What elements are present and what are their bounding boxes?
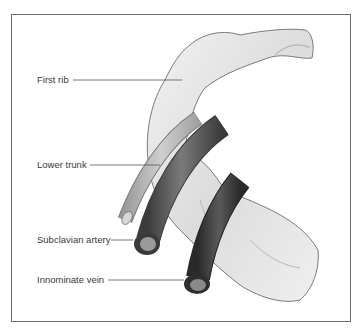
label-first-rib: First rib — [37, 74, 69, 85]
subclavian-artery-lumen-inner — [140, 237, 156, 251]
label-lower-trunk: Lower trunk — [37, 159, 87, 170]
label-subclavian-artery: Subclavian artery — [37, 234, 110, 245]
label-innominate-vein: Innominate vein — [37, 274, 104, 285]
innominate-vein-lumen-inner — [190, 279, 206, 291]
